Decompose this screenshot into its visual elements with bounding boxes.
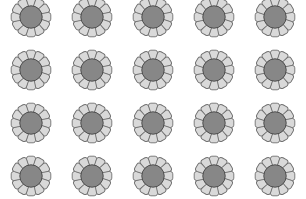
flower-item <box>193 102 235 144</box>
flower-center <box>264 6 286 28</box>
flower-center <box>81 59 103 81</box>
flower-icon <box>132 49 174 91</box>
flower-center <box>264 165 286 187</box>
flower-item <box>10 49 52 91</box>
flower-icon <box>71 102 113 144</box>
flower-item <box>10 102 52 144</box>
flower-icon <box>193 155 235 197</box>
flower-icon <box>254 155 296 197</box>
flower-center <box>142 112 164 134</box>
flower-icon <box>254 0 296 38</box>
flower-icon <box>254 49 296 91</box>
flower-item <box>132 102 174 144</box>
flower-center <box>203 6 225 28</box>
flower-icon <box>10 102 52 144</box>
flower-icon <box>132 102 174 144</box>
flower-center <box>203 59 225 81</box>
flower-icon <box>193 102 235 144</box>
flower-center <box>20 6 42 28</box>
flower-center <box>203 165 225 187</box>
flower-icon <box>193 0 235 38</box>
flower-icon <box>254 102 296 144</box>
flower-item <box>193 0 235 38</box>
flower-item <box>10 155 52 197</box>
flower-icon <box>132 0 174 38</box>
flower-center <box>203 112 225 134</box>
flower-icon <box>10 155 52 197</box>
flower-item <box>254 155 296 197</box>
flower-item <box>132 155 174 197</box>
flower-icon <box>10 49 52 91</box>
flower-center <box>20 112 42 134</box>
flower-item <box>193 49 235 91</box>
flower-center <box>81 112 103 134</box>
flower-center <box>81 165 103 187</box>
flower-icon <box>71 49 113 91</box>
flower-item <box>132 0 174 38</box>
flower-icon <box>71 0 113 38</box>
flower-item <box>71 155 113 197</box>
flower-center <box>81 6 103 28</box>
flower-item <box>254 49 296 91</box>
flower-grid <box>0 0 306 199</box>
flower-item <box>254 0 296 38</box>
flower-item <box>193 155 235 197</box>
flower-icon <box>10 0 52 38</box>
flower-item <box>254 102 296 144</box>
flower-center <box>142 165 164 187</box>
flower-icon <box>71 155 113 197</box>
flower-center <box>142 59 164 81</box>
flower-center <box>142 6 164 28</box>
flower-icon <box>132 155 174 197</box>
flower-item <box>10 0 52 38</box>
flower-center <box>264 112 286 134</box>
flower-center <box>264 59 286 81</box>
flower-center <box>20 165 42 187</box>
flower-item <box>132 49 174 91</box>
flower-center <box>20 59 42 81</box>
flower-item <box>71 49 113 91</box>
flower-item <box>71 0 113 38</box>
flower-item <box>71 102 113 144</box>
flower-icon <box>193 49 235 91</box>
